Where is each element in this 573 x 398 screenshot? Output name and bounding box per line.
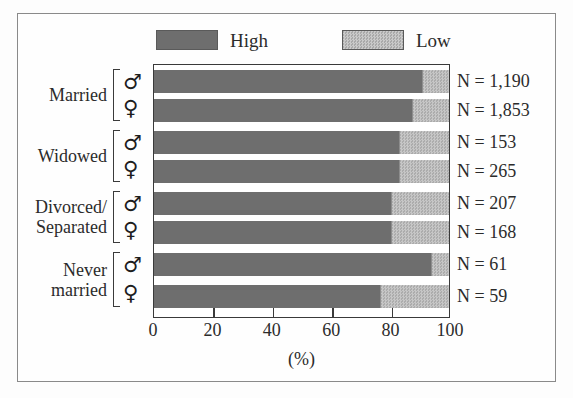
bar-segment-low [412,99,449,122]
figure-container: High Low Married ♂ ♀ Widowed [0,0,573,398]
sex-bracket-divorced-separated: ♂ ♀ [113,191,153,243]
x-axis-title: (%) [153,349,450,370]
x-axis-tick-label: 40 [263,320,281,340]
female-icon: ♀ [123,220,138,241]
sex-bracket-married: ♂ ♀ [113,69,153,121]
n-label: N = 59 [457,286,507,306]
female-icon: ♀ [123,98,138,119]
plot-area [153,64,450,318]
bar-segment-high [154,192,391,215]
male-icon: ♂ [123,133,142,154]
x-axis-tick-label: 20 [203,320,221,340]
bar-segment-high [154,70,422,93]
sex-bracket-never-married: ♂ ♀ [113,252,153,307]
n-label: N = 207 [457,193,516,213]
bracket-icon [113,130,120,182]
bar-segment-low [391,192,449,215]
category-label-widowed: Widowed [38,146,111,166]
x-axis-tick-label: 100 [437,320,464,340]
legend-swatch-low-icon [342,30,404,50]
bar-segment-high [154,253,431,276]
male-icon: ♂ [123,194,142,215]
x-axis-tick-label: 0 [149,320,158,340]
bar-row [154,131,449,154]
female-icon: ♀ [123,283,138,304]
x-axis-tick-label: 60 [322,320,340,340]
legend-entry-high: High [156,25,268,55]
bar-row [154,285,449,308]
x-axis-tick [392,308,394,317]
x-axis-tick [332,308,334,317]
sex-symbols: ♂ ♀ [120,69,153,121]
bracket-icon [113,252,120,307]
legend-entry-low: Low [342,25,451,55]
sex-symbols: ♂ ♀ [120,130,153,182]
bar-segment-low [380,285,449,308]
sex-bracket-widowed: ♂ ♀ [113,130,153,182]
bar-row [154,253,449,276]
legend-label-low: Low [416,31,451,50]
bar-segment-low [399,131,449,154]
category-label-married: Married [49,85,111,105]
bar-segment-high [154,160,399,183]
category-axis: Married ♂ ♀ Widowed ♂ ♀ Divorced/ [18,64,153,318]
bar-row [154,221,449,244]
category-group-widowed: Widowed [18,130,111,182]
legend-label-high: High [230,31,268,50]
sex-symbols: ♂ ♀ [120,252,153,307]
x-axis-tick-label: 80 [382,320,400,340]
sex-symbols: ♂ ♀ [120,191,153,243]
chart-legend: High Low [150,25,480,55]
bar-row [154,70,449,93]
n-label: N = 153 [457,132,516,152]
n-label: N = 168 [457,222,516,242]
male-icon: ♂ [123,255,142,276]
bracket-icon [113,69,120,121]
bar-segment-low [391,221,449,244]
n-annotations: N = 1,190N = 1,853N = 153N = 265N = 207N… [457,64,567,318]
x-axis-tick [273,308,275,317]
female-icon: ♀ [123,159,138,180]
x-axis-tick-labels: 020406080100 [153,320,450,344]
legend-swatch-high-icon [156,30,218,50]
n-label: N = 61 [457,254,507,274]
n-label: N = 265 [457,161,516,181]
bar-segment-low [422,70,449,93]
bar-segment-high [154,221,391,244]
bar-segment-low [399,160,449,183]
category-label-divorced-separated: Divorced/ Separated [35,197,111,237]
bar-row [154,99,449,122]
n-label: N = 1,190 [457,71,530,91]
bar-segment-high [154,99,412,122]
bar-segment-high [154,285,380,308]
bracket-icon [113,191,120,243]
bar-row [154,192,449,215]
x-axis-tick [213,308,215,317]
bar-segment-high [154,131,399,154]
male-icon: ♂ [123,72,142,93]
category-group-never-married: Never married [18,252,111,307]
category-label-never-married: Never married [51,260,111,300]
category-group-divorced-separated: Divorced/ Separated [18,191,111,243]
bar-segment-low [431,253,449,276]
n-label: N = 1,853 [457,100,530,120]
bar-row [154,160,449,183]
category-group-married: Married [18,69,111,121]
